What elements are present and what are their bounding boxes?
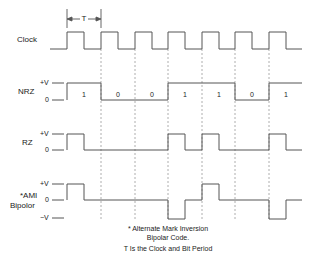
note-line2: Bipolar Code. xyxy=(147,234,189,241)
period-label: T xyxy=(81,15,88,23)
clock-label: Clock xyxy=(17,36,37,44)
bit-label: 0 xyxy=(250,91,254,98)
bit-label: 0 xyxy=(116,91,120,98)
bit-label: 1 xyxy=(183,91,187,98)
note-line3: T Is the Clock and Bit Period xyxy=(124,245,213,252)
rz-level-zero: 0 xyxy=(45,146,49,153)
ami-level-low: −V xyxy=(40,214,49,221)
ami-level-high: +V xyxy=(40,180,49,187)
bit-label: 1 xyxy=(82,91,86,98)
bit-label: 1 xyxy=(284,91,288,98)
timing-diagram: T Clock NRZ +V 0 1 0 0 1 1 0 1 RZ +V 0 *… xyxy=(0,0,312,262)
nrz-level-high: +V xyxy=(40,79,49,86)
ami-waveform xyxy=(67,184,302,219)
note-line1: * Alternate Mark Inversion xyxy=(128,225,208,232)
ami-label-line2: Bipolor xyxy=(10,202,35,210)
rz-waveform xyxy=(67,134,302,150)
ami-label-line1: *AMI xyxy=(20,192,37,200)
rz-level-high: +V xyxy=(40,130,49,137)
clock-waveform xyxy=(50,32,302,49)
bit-label: 0 xyxy=(150,91,154,98)
bit-label: 1 xyxy=(217,91,221,98)
rz-label: RZ xyxy=(22,139,33,147)
nrz-label: NRZ xyxy=(18,88,34,96)
ami-level-zero: 0 xyxy=(45,196,49,203)
nrz-level-zero: 0 xyxy=(45,96,49,103)
